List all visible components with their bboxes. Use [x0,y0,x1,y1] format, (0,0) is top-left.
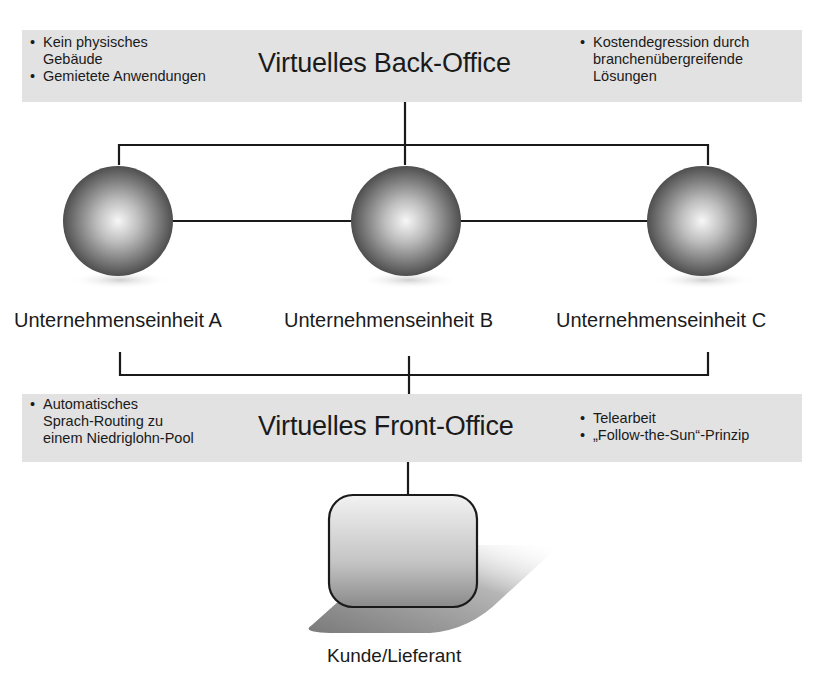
customer-label: Kunde/Lieferant [327,645,461,667]
unit-label-c: Unternehmenseinheit C [556,309,766,332]
bullet-item: Automatisches Sprach-Routing zu einem Ni… [30,396,194,447]
bullet-item: Telearbeit [580,410,749,427]
unit-label-a: Unternehmenseinheit A [14,309,222,332]
front-office-left-bullets: Automatisches Sprach-Routing zu einem Ni… [30,396,194,447]
diagram-canvas [0,0,834,687]
unit-label-b: Unternehmenseinheit B [284,309,493,332]
connector-bottom-bracket [120,352,708,375]
bullet-item: Gemietete Anwendungen [30,68,206,85]
customer-box [329,495,477,607]
front-office-title: Virtuelles Front-Office [258,411,514,442]
sphere-unit-a [63,166,173,276]
front-office-right-bullets: Telearbeit „Follow-the-Sun“-Prinzip [580,410,749,444]
bullet-item: Kostendegression durch branchenübergreif… [580,34,749,85]
connector-top-bus [119,145,708,165]
back-office-left-bullets: Kein physisches Gebäude Gemietete Anwend… [30,34,206,85]
bullet-item: Kein physisches Gebäude [30,34,206,68]
sphere-unit-b [351,166,461,276]
bullet-item: „Follow-the-Sun“-Prinzip [580,427,749,444]
back-office-title: Virtuelles Back-Office [258,48,511,79]
back-office-right-bullets: Kostendegression durch branchenübergreif… [580,34,749,85]
sphere-unit-c [647,166,757,276]
